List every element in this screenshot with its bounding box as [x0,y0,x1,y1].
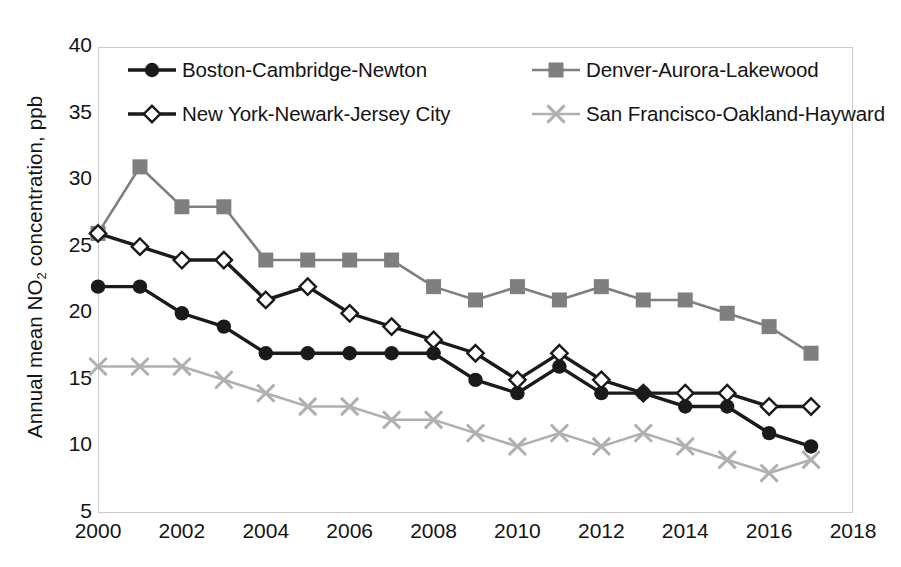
data-point-marker [593,438,610,455]
data-point-marker [761,398,777,414]
legend-marker-cross-icon [530,103,582,125]
data-point-marker [384,346,398,360]
data-point-marker [174,199,189,214]
data-point-marker [217,319,231,333]
data-point-marker [594,279,609,294]
data-point-marker [215,371,232,388]
chart-legend: Boston-Cambridge-NewtonDenver-Aurora-Lak… [126,58,786,144]
data-point-marker [720,399,734,413]
data-point-marker [341,305,357,321]
data-point-marker [677,438,694,455]
data-point-marker [425,332,441,348]
data-point-marker [677,385,693,401]
legend-marker-diamond-open-icon [126,103,178,125]
data-point-marker [133,279,147,293]
data-point-marker [467,345,483,361]
data-point-marker [762,426,776,440]
data-point-marker [551,345,567,361]
data-point-marker [510,386,524,400]
data-point-marker [804,439,818,453]
series-line [98,367,811,474]
data-point-marker [804,346,819,361]
data-point-marker [300,253,315,268]
legend-label: New York-Newark-Jersey City [182,102,450,126]
data-point-marker [216,199,231,214]
legend-marker-circle-filled-icon [126,59,178,81]
data-point-marker [593,372,609,388]
data-point-marker [720,306,735,321]
data-point-marker [175,306,189,320]
data-point-marker [719,385,735,401]
data-point-marker [468,373,482,387]
legend-marker-square-filled-icon [530,59,582,81]
data-point-marker [383,318,399,334]
data-point-marker [762,319,777,334]
series-line [98,287,811,447]
legend-item[interactable]: New York-Newark-Jersey City [126,102,450,126]
legend-label: San Francisco-Oakland-Hayward [586,102,885,126]
data-point-marker [678,399,692,413]
data-point-marker [551,425,568,442]
data-point-marker [509,438,526,455]
data-point-marker [145,63,159,77]
data-point-marker [678,292,693,307]
data-point-marker [594,386,608,400]
data-point-marker [468,292,483,307]
data-point-marker [301,346,315,360]
data-point-marker [761,464,778,481]
data-point-marker [636,386,650,400]
legend-label: Boston-Cambridge-Newton [182,58,427,82]
data-point-marker [174,252,190,268]
data-point-marker [144,106,160,122]
data-point-marker [719,451,736,468]
data-point-marker [132,239,148,255]
legend-item[interactable]: San Francisco-Oakland-Hayward [530,102,885,126]
data-point-marker [91,279,105,293]
data-point-marker [259,346,273,360]
legend-label: Denver-Aurora-Lakewood [586,58,819,82]
data-point-marker [635,425,652,442]
data-point-marker [549,63,564,78]
chart-figure: Annual mean NO2 concentration, ppb 51015… [0,0,901,567]
data-point-marker [342,253,357,268]
data-point-marker [510,279,525,294]
data-point-marker [802,451,819,468]
data-point-marker [552,292,567,307]
data-point-marker [467,425,484,442]
data-point-marker [636,292,651,307]
data-point-marker [426,346,440,360]
data-point-marker [426,279,441,294]
data-point-marker [300,278,316,294]
series-3 [89,358,819,482]
legend-item[interactable]: Boston-Cambridge-Newton [126,58,427,82]
data-point-marker [384,253,399,268]
data-point-marker [509,372,525,388]
data-point-marker [803,398,819,414]
data-point-marker [132,159,147,174]
legend-item[interactable]: Denver-Aurora-Lakewood [530,58,819,82]
data-point-marker [552,359,566,373]
data-point-marker [258,253,273,268]
data-point-marker [257,385,274,402]
data-point-marker [342,346,356,360]
